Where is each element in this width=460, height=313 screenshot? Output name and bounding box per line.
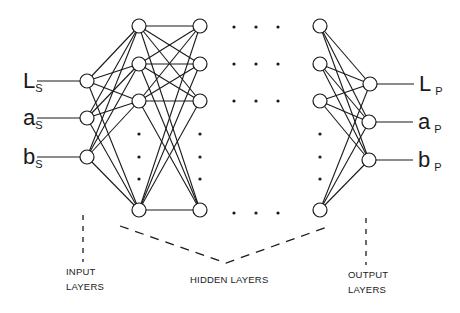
neuron-node bbox=[362, 115, 376, 129]
ellipsis-dot bbox=[276, 62, 279, 65]
neuron-node bbox=[363, 77, 377, 91]
ellipsis-dot bbox=[276, 99, 279, 102]
ellipsis-dot bbox=[276, 25, 279, 28]
neuron-node bbox=[313, 19, 327, 33]
connection-line bbox=[320, 84, 370, 101]
neuron-node bbox=[132, 19, 146, 33]
ellipsis-dot bbox=[198, 155, 201, 158]
ellipsis-dot bbox=[198, 132, 201, 135]
neuron-node bbox=[80, 150, 94, 164]
ellipsis-dot bbox=[137, 177, 140, 180]
input-layers-caption-line1: INPUT bbox=[66, 266, 96, 277]
neuron-node bbox=[80, 74, 94, 88]
ellipsis-dot bbox=[137, 155, 140, 158]
neuron-node bbox=[193, 19, 207, 33]
connection-line bbox=[87, 118, 139, 210]
neuron-node bbox=[362, 153, 376, 167]
layer-brackets bbox=[83, 215, 366, 265]
ellipsis-dots bbox=[137, 25, 321, 214]
output-layers-caption-line1: OUTPUT bbox=[348, 269, 388, 280]
ellipsis-dot bbox=[198, 177, 201, 180]
neuron-node bbox=[193, 57, 207, 71]
ellipsis-dot bbox=[318, 132, 321, 135]
ellipsis-dot bbox=[254, 62, 257, 65]
ellipsis-dot bbox=[276, 211, 279, 214]
ellipsis-dot bbox=[254, 211, 257, 214]
ellipsis-dot bbox=[232, 25, 235, 28]
ellipsis-dot bbox=[232, 211, 235, 214]
output-layers-caption-line2: LAYERS bbox=[348, 284, 386, 295]
output-label-l: LP bbox=[419, 71, 443, 97]
connection-line bbox=[320, 101, 369, 160]
input-layers-caption-line2: LAYERS bbox=[66, 281, 104, 292]
neuron-node bbox=[132, 203, 146, 217]
neuron-node bbox=[313, 203, 327, 217]
ellipsis-dot bbox=[232, 99, 235, 102]
neuron-node bbox=[80, 111, 94, 125]
hidden-layers-dashed-bracket bbox=[120, 226, 330, 263]
hidden-layers-caption: HIDDEN LAYERS bbox=[190, 274, 268, 285]
connection-line bbox=[87, 81, 139, 210]
neural-network-diagram: LSaSbSLPaPbP INPUT LAYERS HIDDEN LAYERS … bbox=[0, 0, 460, 313]
ellipsis-dot bbox=[254, 99, 257, 102]
ellipsis-dot bbox=[254, 25, 257, 28]
neuron-node bbox=[132, 94, 146, 108]
connection-line bbox=[320, 64, 370, 84]
neuron-node bbox=[193, 203, 207, 217]
output-label-a: aP bbox=[418, 109, 442, 135]
neuron-node bbox=[193, 94, 207, 108]
connection-lines bbox=[87, 26, 370, 210]
ellipsis-dot bbox=[318, 155, 321, 158]
neuron-node bbox=[313, 57, 327, 71]
connection-line bbox=[320, 122, 369, 210]
ellipsis-dot bbox=[232, 62, 235, 65]
output-label-b: bP bbox=[418, 147, 442, 173]
ellipsis-dot bbox=[318, 177, 321, 180]
connection-line bbox=[320, 160, 369, 210]
ellipsis-dot bbox=[137, 132, 140, 135]
connection-line bbox=[87, 26, 139, 157]
neuron-node bbox=[313, 94, 327, 108]
neuron-node bbox=[132, 57, 146, 71]
